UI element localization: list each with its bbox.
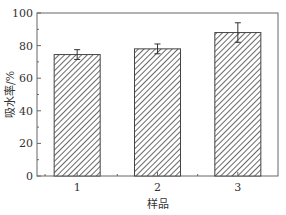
y-tick-label: 100 xyxy=(12,7,33,20)
bar-1 xyxy=(54,55,100,176)
x-tick-label: 3 xyxy=(234,181,241,194)
y-tick-label: 60 xyxy=(19,72,33,85)
y-tick-label: 80 xyxy=(19,40,33,53)
y-tick-label: 0 xyxy=(26,170,33,183)
x-tick-label: 1 xyxy=(74,181,81,194)
x-axis-label: 样品 xyxy=(147,197,169,211)
bar-2 xyxy=(135,49,181,176)
y-tick-label: 20 xyxy=(19,137,33,150)
x-tick-label: 2 xyxy=(154,181,161,194)
y-tick-label: 40 xyxy=(19,105,33,118)
y-axis-label: 吸水率/% xyxy=(3,71,17,118)
bar-3 xyxy=(215,33,261,176)
bar-chart: 020406080100123样品吸水率/% xyxy=(0,0,286,215)
